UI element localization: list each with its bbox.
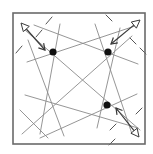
edge-dash-3 bbox=[16, 46, 22, 53]
edge-dash-1 bbox=[46, 17, 52, 24]
edge-dash-8 bbox=[110, 124, 116, 130]
lines-layer bbox=[20, 24, 140, 138]
arrow-shaft bbox=[111, 25, 134, 44]
arrow-shaft bbox=[26, 29, 45, 50]
edge-dash-2 bbox=[36, 30, 42, 37]
open-arrowhead-icon bbox=[131, 128, 139, 137]
edge-dash-5 bbox=[130, 38, 136, 44]
dot-top-left bbox=[49, 48, 56, 55]
dot-bottom-right bbox=[103, 101, 110, 108]
edge-dash-4 bbox=[106, 15, 112, 21]
arrow-top-right-icon bbox=[111, 20, 140, 44]
dot-top-right bbox=[104, 48, 111, 55]
construction-line-5 bbox=[28, 40, 64, 136]
arrow-top-left-icon bbox=[21, 23, 45, 50]
arrow-shaft bbox=[116, 108, 134, 131]
edge-dash-7 bbox=[136, 108, 142, 114]
line-arrangement-diagram bbox=[0, 0, 153, 154]
diagram-canvas bbox=[0, 0, 153, 154]
